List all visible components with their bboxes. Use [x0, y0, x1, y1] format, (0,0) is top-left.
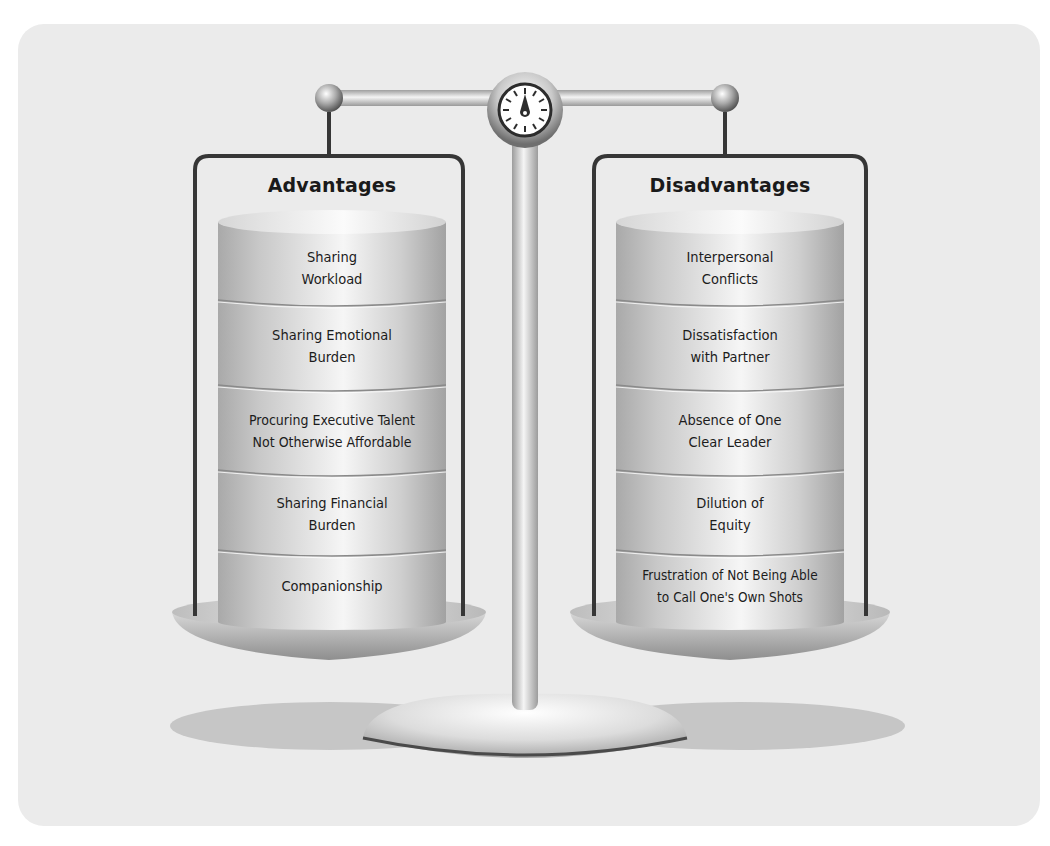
- disadvantage-item: Interpersonal Conflicts: [616, 234, 844, 302]
- advantage-item: Procuring Executive Talent Not Otherwise…: [218, 390, 446, 472]
- scale-pole: [512, 130, 538, 710]
- advantage-item: Sharing Workload: [218, 234, 446, 302]
- advantages-title: Advantages: [218, 174, 446, 196]
- gauge-icon: [487, 72, 563, 148]
- disadvantage-item: Dilution of Equity: [616, 476, 844, 552]
- beam-end-ball-right: [711, 84, 739, 112]
- disadvantage-item: Absence of One Clear Leader: [616, 390, 844, 472]
- balance-scale-graphic: [0, 0, 1050, 846]
- disadvantages-title: Disadvantages: [616, 174, 844, 196]
- disadvantage-item: Dissatisfaction with Partner: [616, 306, 844, 386]
- disadvantage-item: Frustration of Not Being Able to Call On…: [610, 556, 850, 616]
- advantage-item: Sharing Emotional Burden: [218, 306, 446, 386]
- advantage-item: Sharing Financial Burden: [218, 476, 446, 552]
- beam-end-ball-left: [315, 84, 343, 112]
- advantage-item: Companionship: [218, 558, 446, 614]
